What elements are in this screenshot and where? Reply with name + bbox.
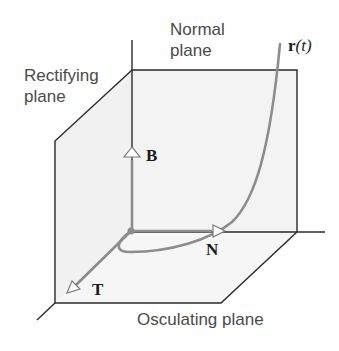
origin-point — [128, 228, 135, 235]
curve-label: r(t) — [288, 36, 312, 56]
planes — [55, 70, 297, 303]
binormal-vector-label: B — [146, 146, 157, 166]
osculating-plane-label: Osculating plane — [137, 310, 264, 330]
curve-label-arg: (t) — [296, 36, 312, 55]
normal-plane-label-line1: Normal — [170, 20, 225, 40]
rectifying-plane-label-line2: plane — [24, 87, 66, 107]
curve-label-bold: r — [288, 36, 296, 55]
tangent-axis-extension — [37, 303, 55, 320]
tnb-frame-diagram: Normal plane Rectifying plane Osculating… — [0, 0, 339, 351]
rectifying-plane-label-line1: Rectifying — [24, 66, 99, 86]
tangent-vector-label: T — [92, 280, 103, 300]
normal-vector-label: N — [206, 240, 218, 260]
normal-plane-label-line2: plane — [170, 41, 212, 61]
